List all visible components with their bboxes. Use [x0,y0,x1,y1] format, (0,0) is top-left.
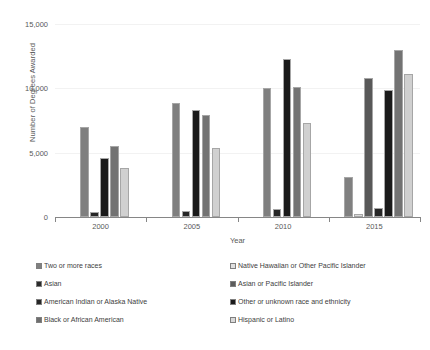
bar [283,59,292,217]
legend-item[interactable]: Native Hawaiian or Other Pacific Islande… [230,262,366,269]
x-axis-title: Year [55,236,420,245]
legend-swatch-icon [230,317,236,323]
legend-item[interactable]: Hispanic or Latino [230,316,294,323]
legend-swatch-icon [230,281,236,287]
legend-swatch-icon [36,299,42,305]
legend-swatch-icon [36,263,42,269]
x-axis-tick [238,218,239,222]
legend-item-label: Hispanic or Latino [238,316,294,323]
legend-item-label: Asian [44,280,62,287]
bar [293,87,302,217]
y-axis-tick-labels: 15,00010,0005,0000 [0,0,52,250]
bar [374,208,383,217]
x-tick-label: 2010 [275,222,292,231]
bar [303,123,312,217]
bar [384,90,393,217]
bar [172,103,181,218]
bar [212,148,221,217]
legend-item[interactable]: Black or African American [36,316,124,323]
bar-series-layer [55,0,420,250]
legend-swatch-icon [36,281,42,287]
bar [364,78,373,217]
y-tick-label: 0 [44,213,48,222]
bar-chart: Number of Degrees Awarded 15,00010,0005,… [0,0,430,350]
legend-item-label: Asian or Pacific Islander [238,280,313,287]
x-axis-tick [420,218,421,222]
legend-item[interactable]: Asian [36,280,62,287]
bar [110,146,119,217]
bar [394,50,403,217]
bar [100,158,109,217]
bar [120,168,129,217]
y-tick-label: 10,000 [25,84,48,93]
bar [202,115,211,217]
legend-swatch-icon [230,299,236,305]
legend-item[interactable]: Other or unknown race and ethnicity [230,298,350,305]
legend-item[interactable]: American Indian or Alaska Native [36,298,147,305]
bar [263,88,272,217]
plot-area: Number of Degrees Awarded 15,00010,0005,… [0,0,430,250]
bar [80,127,89,217]
bar [273,209,282,217]
legend-item-label: American Indian or Alaska Native [44,298,147,305]
legend-item-label: Black or African American [44,316,124,323]
legend-swatch-icon [36,317,42,323]
bar [404,74,413,217]
x-axis-tick [329,218,330,222]
x-tick-label: 2015 [366,222,383,231]
legend-item-label: Other or unknown race and ethnicity [238,298,350,305]
chart-legend: Two or more racesAsianAmerican Indian or… [0,258,430,350]
x-tick-label: 2005 [184,222,201,231]
legend-item-label: Native Hawaiian or Other Pacific Islande… [238,262,366,269]
legend-item[interactable]: Two or more races [36,262,102,269]
x-tick-label: 2000 [92,222,109,231]
x-axis-tick [146,218,147,222]
y-tick-label: 15,000 [25,20,48,29]
x-axis-tick [55,218,56,222]
bar [344,177,353,217]
y-tick-label: 5,000 [29,148,48,157]
legend-swatch-icon [230,263,236,269]
legend-item-label: Two or more races [44,262,102,269]
legend-item[interactable]: Asian or Pacific Islander [230,280,313,287]
bar [192,110,201,217]
